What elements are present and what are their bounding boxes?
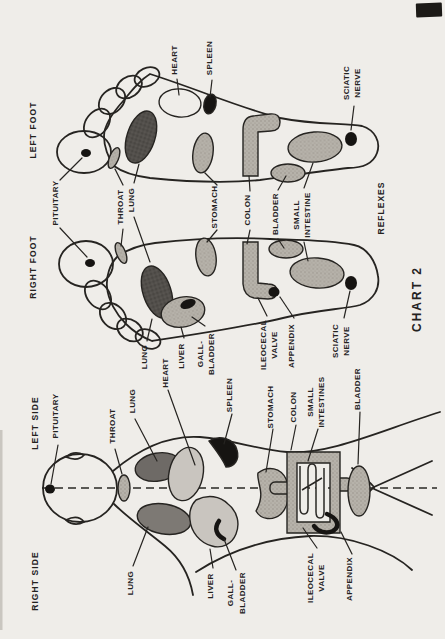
ileocecal-valve-dot-right-foot [269, 287, 280, 297]
label-sciatic-nerve-top-line1: SCIATIC [342, 66, 351, 100]
label-gall-bladder-body-line1: GALL- [226, 580, 235, 606]
label-appendix-body: APPENDIX [345, 557, 354, 601]
left-foot-diagram [57, 63, 378, 182]
label-sciatic-nerve-bottom-line2: NERVE [342, 326, 351, 356]
label-lung-right-foot: LUNG [140, 345, 149, 369]
label-bladder-feet: BLADDER [271, 193, 280, 235]
pituitary-dot-right-foot [85, 259, 95, 267]
label-throat-body: THROAT [108, 408, 117, 443]
body-leg-inner-top [374, 461, 432, 487]
throat-body [118, 475, 130, 501]
body-diagram: LEFT SIDE RIGHT SIDE PITUITARY THROAT LU… [30, 358, 440, 614]
heart-body [164, 444, 208, 504]
small-intestine-zone-right-foot [289, 256, 345, 290]
label-gall-bladder-body-line2: BLADDER [238, 572, 247, 614]
label-spleen-feet: SPLEEN [205, 41, 214, 75]
label-pituitary-feet: PITUITARY [51, 180, 60, 225]
label-heart-feet: HEART [170, 45, 179, 75]
label-gall-bladder-right-foot-line2: BLADDER [207, 333, 216, 375]
label-colon-body: COLON [289, 392, 298, 423]
body-ear-top [66, 453, 84, 459]
scan-corner-mark [416, 3, 442, 18]
bladder-zone-left-foot [271, 164, 305, 182]
label-small-intestine-feet-line2: INTESTINE [303, 192, 312, 238]
stomach-zone-left-foot [190, 132, 215, 174]
label-liver-right-foot: LIVER [177, 343, 186, 369]
label-lung-feet-mid: LUNG [127, 188, 136, 212]
heart-zone-left-foot [158, 87, 202, 119]
feet-reflex-chart: LEFT FOOT RIGHT FOOT HEART SPLEEN SCIATI… [28, 41, 424, 375]
left-foot-title: LEFT FOOT [28, 101, 38, 158]
pituitary-dot-left-foot [81, 149, 91, 157]
reflexes-caption: REFLEXES [376, 182, 386, 235]
colon-zone-left-foot [243, 114, 280, 176]
left-toe-2 [78, 104, 115, 143]
label-ileocecal-valve-body-line1: ILEOCECAL [306, 553, 315, 603]
label-liver-body: LIVER [206, 573, 215, 599]
body-leg-inner-bottom [374, 489, 432, 515]
label-pituitary-body: PITUITARY [51, 393, 60, 438]
label-appendix-right-foot: APPENDIX [287, 324, 296, 368]
pituitary-dot-body [45, 485, 55, 494]
bladder-body [348, 466, 370, 516]
right-foot-title: RIGHT FOOT [28, 235, 38, 298]
right-side-title: RIGHT SIDE [30, 551, 40, 611]
label-heart-body: HEART [161, 358, 170, 388]
label-colon-feet: COLON [243, 195, 252, 226]
label-lung-body-bottom: LUNG [126, 571, 135, 595]
reflexology-chart-page: LEFT FOOT RIGHT FOOT HEART SPLEEN SCIATI… [0, 0, 445, 639]
small-intestines-body [300, 464, 324, 518]
label-small-intestine-feet-line1: SMALL [292, 200, 301, 230]
label-sciatic-nerve-bottom-line1: SCIATIC [331, 324, 340, 358]
stomach-zone-right-foot [193, 237, 218, 277]
label-small-intestines-body-line1: SMALL [306, 387, 315, 417]
label-stomach-body: STOMACH [266, 385, 275, 428]
label-ileocecal-valve-right-foot-line2: VALVE [270, 331, 279, 359]
left-toe-3 [94, 83, 131, 120]
scan-edge-artifact [0, 430, 3, 630]
label-sciatic-nerve-top-line2: NERVE [353, 68, 362, 98]
reflex-chart-figure: LEFT FOOT RIGHT FOOT HEART SPLEEN SCIATI… [0, 0, 445, 639]
liver-body [190, 497, 238, 547]
label-ileocecal-valve-body-line2: VALVE [317, 564, 326, 592]
label-spleen-body: SPLEEN [225, 378, 234, 412]
label-lung-body-top: LUNG [128, 389, 137, 413]
right-toe-2 [79, 276, 116, 315]
sciatic-nerve-dot-right-foot [345, 276, 357, 290]
label-throat-feet: THROAT [116, 189, 125, 224]
bladder-zone-right-foot [269, 240, 303, 258]
label-bladder-body: BLADDER [353, 368, 362, 410]
sciatic-nerve-dot-left-foot [345, 132, 357, 146]
left-side-title: LEFT SIDE [30, 396, 40, 449]
label-small-intestines-body-line2: INTESTINES [317, 376, 326, 427]
chart-caption: CHART 2 [410, 266, 424, 332]
lung-zone-left-foot [119, 107, 162, 167]
throat-zone-left-foot [106, 146, 123, 170]
label-gall-bladder-right-foot-line1: GALL- [196, 341, 205, 367]
label-stomach-feet: STOMACH [210, 185, 219, 228]
right-lung-body [135, 500, 193, 539]
label-ileocecal-valve-right-foot-line1: ILEOCECAL [259, 320, 268, 370]
right-toe-3 [95, 298, 132, 335]
small-intestine-zone-left-foot [287, 130, 343, 164]
